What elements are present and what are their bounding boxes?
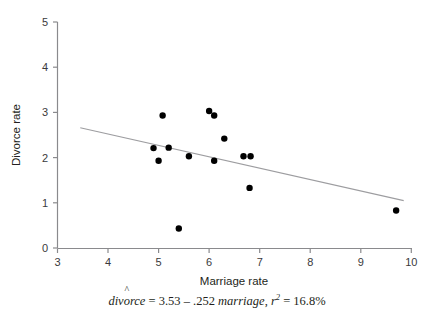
regression-fit-line — [80, 128, 403, 201]
response-variable-text: divorce — [108, 294, 145, 308]
y-tick-label-3: 3 — [42, 106, 48, 118]
data-point — [211, 112, 217, 118]
regression-equation-caption: ^divorce = 3.53 – .252 marriage, r2 = 16… — [0, 292, 434, 309]
x-tick-label-7: 7 — [257, 256, 263, 268]
equation-intercept: 3.53 — [159, 294, 181, 308]
data-point — [393, 207, 399, 213]
data-point — [150, 145, 156, 151]
data-point — [246, 185, 252, 191]
data-point — [186, 153, 192, 159]
data-point — [211, 158, 217, 164]
plot-canvas: 5 4 3 2 1 0 3 4 5 6 7 8 9 10 — [0, 0, 434, 326]
x-axis-tick-labels: 3 4 5 6 7 8 9 10 — [54, 256, 417, 268]
scatter-plot-figure: 5 4 3 2 1 0 3 4 5 6 7 8 9 10 — [0, 0, 434, 326]
x-tick-label-9: 9 — [358, 256, 364, 268]
x-tick-label-5: 5 — [156, 256, 162, 268]
equation-equals: = — [145, 294, 158, 308]
y-axis-title: Divorce rate — [10, 104, 22, 166]
data-point — [206, 108, 212, 114]
data-point — [165, 144, 171, 150]
data-point — [247, 153, 253, 159]
data-point — [159, 112, 165, 118]
x-tick-label-8: 8 — [307, 256, 313, 268]
response-variable-label: ^divorce — [108, 294, 145, 309]
data-points-group — [150, 108, 399, 232]
data-point — [155, 158, 161, 164]
y-tick-label-0: 0 — [42, 242, 48, 254]
data-point — [240, 153, 246, 159]
r-squared-value: 16.8% — [293, 294, 325, 308]
x-tick-label-3: 3 — [54, 256, 60, 268]
x-tick-label-10: 10 — [405, 256, 417, 268]
equation-predictor: marriage — [215, 294, 265, 308]
y-tick-label-1: 1 — [42, 197, 48, 209]
data-point — [176, 225, 182, 231]
y-tick-label-4: 4 — [42, 61, 48, 73]
hat-accent-icon: ^ — [125, 285, 130, 295]
y-tick-label-5: 5 — [42, 16, 48, 28]
equation-operator: – — [181, 294, 194, 308]
equation-slope: .252 — [193, 294, 215, 308]
y-axis-ticks — [53, 22, 58, 248]
x-tick-label-6: 6 — [206, 256, 212, 268]
data-point — [221, 135, 227, 141]
r-squared-equals: = — [280, 294, 293, 308]
y-tick-label-2: 2 — [42, 152, 48, 164]
x-axis-title: Marriage rate — [200, 275, 268, 287]
x-axis-ticks — [58, 249, 412, 254]
x-tick-label-4: 4 — [105, 256, 111, 268]
y-axis-tick-labels: 5 4 3 2 1 0 — [42, 16, 48, 254]
